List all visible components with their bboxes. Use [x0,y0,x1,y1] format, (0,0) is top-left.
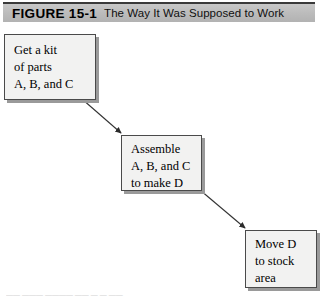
figure-title: The Way It Was Supposed to Work [104,7,284,19]
flow-box-get-kit: Get a kit of parts A, B, and C [4,34,96,100]
page-footer-text-sliver: ―― ――― ―――― ―― ― ― ―― [6,291,176,297]
arrow-kit-to-assemble [82,99,121,133]
arrow-assemble-to-move [200,190,245,228]
figure-number: FIGURE 15-1 [12,6,97,21]
flow-box-move-to-stock: Move D to stock area [245,230,317,288]
figure-banner: FIGURE 15-1 The Way It Was Supposed to W… [3,2,315,22]
flow-box-assemble: Assemble A, B, and C to make D [121,135,202,191]
